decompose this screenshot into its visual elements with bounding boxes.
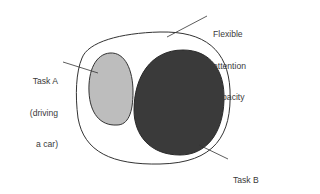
task-a-shape bbox=[89, 53, 133, 125]
task-a-label: Task A (driving a car) bbox=[20, 55, 58, 160]
task-a-label-line2: (driving bbox=[20, 108, 58, 119]
capacity-label-line3: capacity bbox=[213, 92, 246, 103]
task-b-label: Task B (talking with a passenger) bbox=[233, 154, 283, 194]
task-b-label-line1: Task B bbox=[233, 175, 283, 186]
task-a-label-line3: a car) bbox=[20, 139, 58, 150]
capacity-label-line1: Flexible bbox=[213, 29, 246, 40]
task-b-shape bbox=[134, 50, 224, 155]
capacity-label-line2: attention bbox=[213, 61, 246, 72]
capacity-leader-line bbox=[167, 16, 207, 37]
task-a-label-line1: Task A bbox=[20, 76, 58, 87]
capacity-label: Flexible attention capacity bbox=[213, 8, 246, 113]
